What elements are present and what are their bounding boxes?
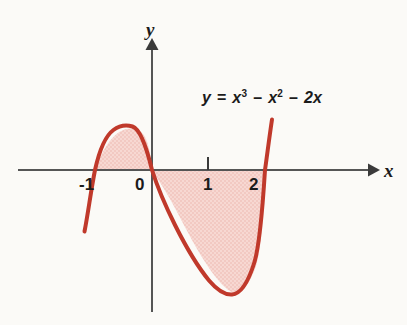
function-graph-figure: y = x3 – x2 – 2x x y -1 0 1 2 (0, 0, 407, 325)
y-axis-label: y (146, 20, 154, 39)
x-axis-arrowhead (368, 164, 380, 177)
equation-equals: = (216, 89, 228, 106)
equation-annotation: y = x3 – x2 – 2x (202, 90, 322, 106)
equation-minus-1: – (252, 89, 263, 106)
equation-term1-base: x (232, 89, 241, 106)
x-axis-label: x (384, 161, 394, 180)
x-tick-label-2: 2 (249, 176, 258, 193)
equation-minus-2: – (288, 89, 299, 106)
x-tick-label-minus1: -1 (79, 176, 94, 193)
equation-lhs: y (202, 89, 211, 106)
x-tick-label-1: 1 (203, 176, 212, 193)
shaded-region-left (95, 129, 152, 170)
x-tick-label-0: 0 (135, 176, 144, 193)
equation-term1-exponent: 3 (242, 88, 248, 99)
equation-term2-base: x (268, 89, 277, 106)
plot-canvas (0, 0, 407, 325)
equation-term3: 2x (304, 89, 322, 106)
equation-term2-exponent: 2 (277, 88, 283, 99)
